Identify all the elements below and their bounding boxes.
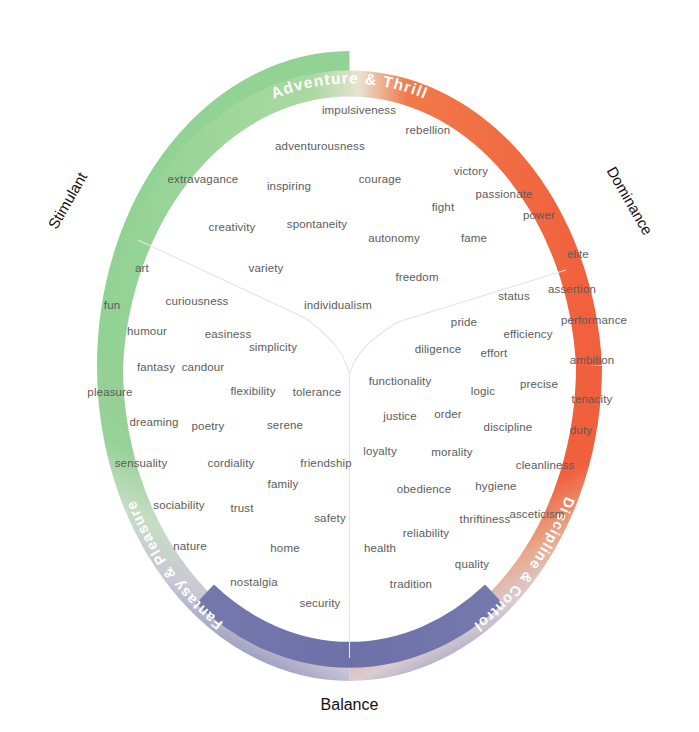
motive-word: autonomy xyxy=(368,232,420,244)
motive-word: assertion xyxy=(548,283,596,295)
motive-wheel-diagram: Adventure & Thrill Discipline & Control … xyxy=(0,0,699,732)
motive-word: inspiring xyxy=(267,180,311,192)
motive-word: morality xyxy=(431,446,472,458)
motive-word: status xyxy=(498,290,530,302)
motive-word: dreaming xyxy=(129,416,178,428)
motive-word: security xyxy=(300,597,341,609)
axis-label-balance: Balance xyxy=(0,696,699,714)
motive-word: efficiency xyxy=(503,328,552,340)
motive-word: functionality xyxy=(369,375,432,387)
motive-word: pride xyxy=(451,316,477,328)
motive-word: fame xyxy=(461,232,487,244)
motive-word: nature xyxy=(173,540,207,552)
motive-word: trust xyxy=(230,502,253,514)
motive-word: sensuality xyxy=(115,457,168,469)
motive-word: safety xyxy=(314,512,346,524)
motive-word: variety xyxy=(249,262,284,274)
motive-word: candour xyxy=(182,361,225,373)
motive-word: diligence xyxy=(415,343,462,355)
motive-word: serene xyxy=(267,419,303,431)
motive-word: simplicity xyxy=(249,341,297,353)
motive-word: fight xyxy=(432,201,455,213)
motive-word: adventurousness xyxy=(275,140,365,152)
motive-word: tradition xyxy=(390,578,432,590)
motive-word: victory xyxy=(454,165,488,177)
motive-word: sociability xyxy=(153,499,205,511)
motive-word: creativity xyxy=(209,221,256,233)
motive-word: fun xyxy=(104,299,120,311)
motive-word: rebellion xyxy=(406,124,451,136)
motive-word: curiousness xyxy=(165,295,228,307)
motive-word: home xyxy=(270,542,299,554)
motive-word: ambition xyxy=(570,354,615,366)
motive-word: fantasy xyxy=(137,361,175,373)
motive-word: cleanliness xyxy=(516,459,575,471)
motive-word: flexibility xyxy=(230,385,275,397)
motive-word: cordiality xyxy=(208,457,255,469)
motive-word: reliability xyxy=(403,527,449,539)
motive-word: impulsiveness xyxy=(322,104,396,116)
motive-word: tolerance xyxy=(293,386,342,398)
motive-word: obedience xyxy=(397,483,451,495)
motive-word: asceticism xyxy=(509,508,564,520)
motive-word: precise xyxy=(520,378,558,390)
motive-word: poetry xyxy=(192,420,225,432)
motive-word: pleasure xyxy=(87,386,132,398)
motive-word: spontaneity xyxy=(287,218,347,230)
motive-word: effort xyxy=(481,347,508,359)
motive-word: loyalty xyxy=(363,445,397,457)
motive-word: justice xyxy=(383,410,417,422)
motive-word: quality xyxy=(455,558,489,570)
motive-word: order xyxy=(434,408,462,420)
motive-word: thriftiness xyxy=(460,513,511,525)
motive-word: easiness xyxy=(205,328,252,340)
motive-word: hygiene xyxy=(475,480,516,492)
motive-word: performance xyxy=(561,314,627,326)
motive-word: art xyxy=(135,262,149,274)
motive-word: nostalgia xyxy=(230,576,277,588)
motive-word: courage xyxy=(359,173,402,185)
motive-word: elite xyxy=(567,248,589,260)
motive-word: extravagance xyxy=(168,173,239,185)
motive-word: power xyxy=(523,209,555,221)
motive-word: humour xyxy=(127,325,167,337)
motive-word: individualism xyxy=(304,299,372,311)
motive-word: passionate xyxy=(475,188,532,200)
motive-word: tenacity xyxy=(572,393,613,405)
motive-word: discipline xyxy=(484,421,533,433)
motive-word: freedom xyxy=(395,271,438,283)
motive-word: duty xyxy=(570,424,592,436)
motive-word: friendship xyxy=(300,457,351,469)
motive-word: logic xyxy=(471,385,495,397)
motive-word: family xyxy=(268,478,299,490)
motive-word: health xyxy=(364,542,396,554)
